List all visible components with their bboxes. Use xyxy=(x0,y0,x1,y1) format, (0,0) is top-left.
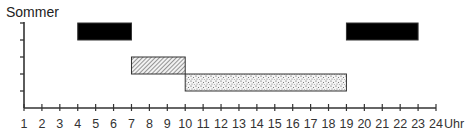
x-tick-label: 9 xyxy=(164,117,171,131)
x-tick-label: 3 xyxy=(56,117,63,131)
x-tick-label: 7 xyxy=(128,117,135,131)
x-axis-labels: 123456789101112131415161718192021222324U… xyxy=(21,117,465,131)
x-tick-label: 23 xyxy=(411,117,425,131)
x-tick-label: 16 xyxy=(286,117,300,131)
x-tick-label: 6 xyxy=(110,117,117,131)
timeline-bar xyxy=(131,57,185,74)
x-tick-label: 21 xyxy=(375,117,389,131)
x-tick-label: 19 xyxy=(339,117,353,131)
x-tick-label: 1 xyxy=(21,117,28,131)
timeline-chart: 123456789101112131415161718192021222324U… xyxy=(0,0,475,135)
x-tick-label: 20 xyxy=(357,117,371,131)
x-tick-label: 12 xyxy=(214,117,228,131)
timeline-bar xyxy=(78,23,132,40)
timeline-bar xyxy=(346,23,418,40)
x-tick-label: 13 xyxy=(232,117,246,131)
x-tick-label: 5 xyxy=(92,117,99,131)
timeline-bar xyxy=(185,74,346,91)
x-axis-unit: Uhr xyxy=(444,117,464,131)
x-tick-label: 24 xyxy=(429,117,443,131)
x-tick-label: 14 xyxy=(250,117,264,131)
x-tick-label: 18 xyxy=(322,117,336,131)
x-tick-label: 8 xyxy=(146,117,153,131)
x-tick-label: 22 xyxy=(393,117,407,131)
x-tick-label: 10 xyxy=(178,117,192,131)
x-tick-label: 4 xyxy=(74,117,81,131)
x-tick-label: 11 xyxy=(197,117,210,131)
x-tick-label: 17 xyxy=(304,117,318,131)
x-tick-label: 15 xyxy=(268,117,282,131)
x-tick-label: 2 xyxy=(38,117,45,131)
bars xyxy=(78,23,418,91)
